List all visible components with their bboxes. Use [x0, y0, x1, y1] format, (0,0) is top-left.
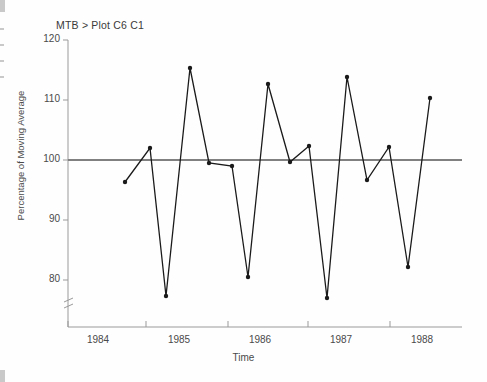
- ytick-label-80: 80: [26, 273, 60, 284]
- data-point: [288, 160, 292, 164]
- data-point: [188, 66, 192, 70]
- data-point: [230, 164, 234, 168]
- data-point: [345, 75, 349, 79]
- data-point: [428, 96, 432, 100]
- x-tick-marks: [68, 321, 390, 327]
- xtick-label-1985: 1985: [149, 334, 209, 345]
- ytick-label-100: 100: [26, 153, 60, 164]
- data-point: [307, 144, 311, 148]
- data-series-line: [125, 68, 430, 298]
- data-point: [148, 146, 152, 150]
- xtick-label-1984: 1984: [68, 334, 128, 345]
- data-point: [387, 145, 391, 149]
- screenshot-root: MTB > Plot C6 C1 120 110 100 90 80: [0, 0, 487, 382]
- xtick-label-1988: 1988: [392, 334, 452, 345]
- data-point: [164, 294, 168, 298]
- xtick-label-1986: 1986: [230, 334, 290, 345]
- ytick-label-110: 110: [26, 93, 60, 104]
- data-point: [266, 82, 270, 86]
- ytick-label-120: 120: [26, 33, 60, 44]
- x-axis-title: Time: [0, 352, 487, 363]
- data-point: [365, 178, 369, 182]
- data-point: [406, 265, 410, 269]
- ytick-label-90: 90: [26, 213, 60, 224]
- data-point: [123, 180, 127, 184]
- plot-area: 120 110 100 90 80 1984 1985 1986 1987 19…: [0, 0, 487, 382]
- data-point: [325, 296, 329, 300]
- y-tick-marks: [63, 40, 68, 280]
- chart-svg: [0, 0, 487, 382]
- data-point: [246, 275, 250, 279]
- xtick-label-1987: 1987: [311, 334, 371, 345]
- data-point: [207, 161, 211, 165]
- y-axis-title: Percentage of Moving Average: [15, 76, 26, 236]
